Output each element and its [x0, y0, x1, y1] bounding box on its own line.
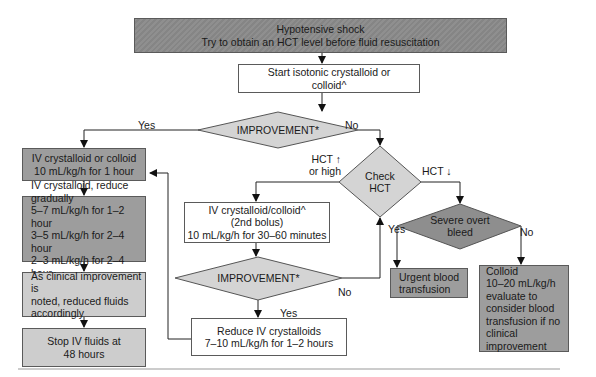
- left-box-4: Stop IV fluids at 48 hours: [22, 328, 146, 367]
- bleed-diamond: Severe overt bleed: [410, 208, 510, 244]
- colloid-box: Colloid 10–20 mL/kg/h evaluate to consid…: [479, 265, 569, 352]
- colloid-line-1: Colloid: [486, 265, 568, 278]
- second-bolus-line-3: 10 mL/kg/h for 30–60 minutes: [188, 229, 327, 242]
- left-box-3-line-1: As clinical improvement is: [31, 270, 145, 295]
- start-line-2: colloid^: [312, 79, 347, 92]
- left-box-4-line-2: 48 hours: [64, 348, 105, 361]
- improvement-1-no-label: No: [345, 119, 358, 131]
- improvement-2-no-label: No: [338, 286, 351, 298]
- improvement-diamond-2: IMPROVEMENT*: [175, 262, 342, 294]
- hct-high-line-1: HCT ↑: [305, 153, 341, 165]
- improvement-1-text: IMPROVEMENT*: [237, 124, 319, 137]
- left-box-3-line-2: noted, reduced fluids: [31, 295, 145, 308]
- left-box-2-line-2: gradually: [31, 192, 145, 205]
- urgent-line-1: Urgent blood: [399, 271, 467, 284]
- improvement-1-yes-label: Yes: [138, 119, 155, 131]
- check-hct-line-1: Check: [365, 170, 395, 183]
- title-box: Hypotensive shock Try to obtain an HCT l…: [134, 18, 507, 53]
- left-box-4-line-1: Stop IV fluids at: [47, 335, 121, 348]
- left-box-2-line-3: 5–7 mL/kg/h for 1–2 hour: [31, 204, 145, 229]
- colloid-line-2: 10–20 mL/kg/h: [486, 277, 568, 290]
- left-box-2-line-1: IV crystalloid, reduce: [31, 179, 145, 192]
- reduce-line-1: Reduce IV crystalloids: [217, 325, 321, 338]
- colloid-line-7: improvement: [486, 340, 568, 353]
- colloid-line-5: transfusion if no: [486, 315, 568, 328]
- title-line-1: Hypotensive shock: [276, 23, 364, 36]
- bleed-line-1: Severe overt: [430, 214, 490, 227]
- bleed-yes-label: Yes: [388, 223, 405, 235]
- colloid-line-4: consider blood: [486, 302, 568, 315]
- start-box: Start isotonic crystalloid or colloid^: [238, 64, 420, 93]
- reduce-line-2: 7–10 mL/kg/h for 1–2 hours: [205, 337, 333, 350]
- reduce-box: Reduce IV crystalloids 7–10 mL/kg/h for …: [191, 318, 347, 356]
- check-hct-line-2: HCT: [369, 182, 391, 195]
- title-line-2: Try to obtain an HCT level before fluid …: [201, 36, 439, 49]
- bleed-no-label: No: [520, 226, 533, 238]
- second-bolus-line-1: IV crystalloid/colloid^: [208, 204, 305, 217]
- urgent-box: Urgent blood transfusion: [390, 268, 468, 298]
- improvement-diamond-1: IMPROVEMENT*: [198, 112, 358, 148]
- left-box-1-line-2: 10 mL/kg/h for 1 hour: [34, 165, 134, 178]
- left-box-2: IV crystalloid, reduce gradually 5–7 mL/…: [22, 196, 146, 262]
- bleed-line-2: bleed: [447, 226, 473, 239]
- start-line-1: Start isotonic crystalloid or: [268, 66, 391, 79]
- left-box-3-line-3: accordingly: [31, 307, 145, 320]
- left-box-1: IV crystalloid or colloid 10 mL/kg/h for…: [22, 148, 146, 181]
- left-box-1-line-1: IV crystalloid or colloid: [32, 152, 136, 165]
- urgent-line-2: transfusion: [399, 283, 467, 296]
- improvement-2-text: IMPROVEMENT*: [217, 272, 299, 285]
- hct-high-line-2: or high: [305, 165, 341, 177]
- colloid-line-6: clinical: [486, 327, 568, 340]
- left-box-3: As clinical improvement is noted, reduce…: [22, 272, 146, 317]
- hct-low-label: HCT ↓: [422, 165, 452, 177]
- second-bolus-box: IV crystalloid/colloid^ (2nd bolus) 10 m…: [184, 202, 330, 243]
- left-box-2-line-4: 3–5 mL/kg/h for 2–4 hour: [31, 229, 145, 254]
- hct-high-label: HCT ↑ or high: [305, 153, 341, 177]
- second-bolus-line-2: (2nd bolus): [231, 216, 284, 229]
- colloid-line-3: evaluate to: [486, 290, 568, 303]
- check-hct-diamond: Check HCT: [339, 162, 421, 202]
